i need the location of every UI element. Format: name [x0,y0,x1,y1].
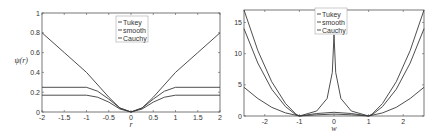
series-tukey [42,87,220,112]
x-tick-label: -2 [262,118,268,125]
x-tick-label: 1.5 [193,114,203,121]
x-tick-label: 2 [401,118,405,125]
legend-entry: smooth [322,19,345,26]
series-smooth [42,95,220,112]
x-tick-label: 1 [174,114,178,121]
legend-entry: Tukey [123,19,142,27]
legend-entry: Cauchy [123,35,147,43]
y-tick-label: 10 [234,50,242,57]
series-smooth [244,29,424,116]
y-tick-label: 0.6 [30,49,40,56]
y-tick-label: 15 [234,19,242,26]
legend: TukeysmoothCauchy [315,8,347,35]
x-axis-label: w [331,124,337,133]
x-tick-label: -1.5 [58,114,70,121]
legend-entry: Tukey [322,11,341,19]
figure: -2-1.5-1-0.500.511.5200.20.40.60.81rψ(r)… [0,0,443,134]
weight-plot: -2-1012051015wTukeysmoothCauchy [234,8,424,133]
x-tick-label: 0.5 [148,114,158,121]
y-tick-label: 0.2 [30,89,40,96]
legend-entry: Cauchy [322,27,346,35]
psi-plot: -2-1.5-1-0.500.511.5200.20.40.60.81rψ(r)… [15,10,222,130]
series-cauchy [42,33,220,112]
y-tick-label: 0.4 [30,69,40,76]
y-tick-label: 5 [238,81,242,88]
x-tick-label: 2 [218,114,222,121]
x-tick-label: 1 [367,118,371,125]
x-axis-label: r [129,120,133,129]
x-tick-label: -0.5 [103,114,115,121]
y-axis-label: ψ(r) [15,56,29,65]
x-tick-label: -1 [296,118,302,125]
x-tick-label: -1 [83,114,89,121]
y-tick-label: 0.8 [30,29,40,36]
y-tick-label: 0 [36,109,40,116]
y-tick-label: 0 [238,113,242,120]
series-cauchy [244,87,424,116]
legend: TukeysmoothCauchy [116,16,148,43]
y-tick-label: 1 [36,10,40,17]
legend-entry: smooth [123,27,146,34]
